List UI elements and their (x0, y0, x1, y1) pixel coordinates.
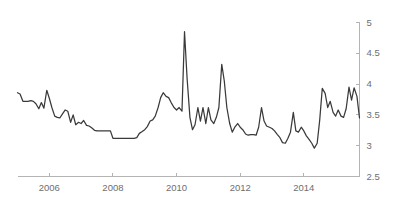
x-axis-tick-label: 2008 (102, 182, 123, 193)
y-axis: 2.533.544.55 (356, 17, 380, 182)
y-axis-tick-label: 2.5 (367, 171, 380, 182)
data-line (18, 32, 360, 148)
y-axis-tick-label: 3 (367, 140, 372, 151)
y-axis-tick-label: 4 (367, 78, 372, 89)
x-axis-tick-label: 2014 (293, 182, 314, 193)
chart-container: 20062008201020122014 2.533.544.55 (0, 0, 399, 214)
x-axis: 20062008201020122014 (18, 173, 360, 193)
y-axis-tick-label: 4.5 (367, 47, 380, 58)
y-axis-tick-label: 3.5 (367, 109, 380, 120)
x-axis-tick-label: 2006 (39, 182, 60, 193)
x-axis-tick-label: 2012 (230, 182, 251, 193)
line-chart: 20062008201020122014 2.533.544.55 (0, 0, 399, 214)
x-axis-tick-label: 2010 (166, 182, 187, 193)
data-series-group (18, 32, 360, 148)
y-axis-tick-label: 5 (367, 17, 372, 28)
